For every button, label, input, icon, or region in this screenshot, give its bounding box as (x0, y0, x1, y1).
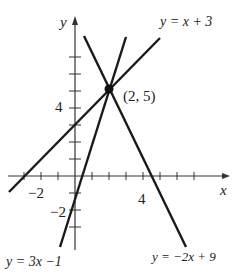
line-label-x-plus-3: y = x + 3 (160, 14, 212, 30)
x-axis-arrow-icon (222, 173, 230, 179)
intersection-point (105, 85, 114, 94)
line-y-equals-neg2x-plus-9 (84, 36, 186, 247)
line-label-3x-minus-1: y = 3x −1 (6, 254, 62, 270)
line-label-neg2x-plus-9: y = −2x + 9 (152, 249, 216, 265)
x-tick-label-4: 4 (138, 191, 146, 208)
y-tick-label-4: 4 (55, 99, 63, 116)
chart-plot (0, 0, 234, 273)
x-tick-label-neg2: −2 (28, 185, 44, 202)
y-tick-label-neg2: −2 (50, 204, 66, 221)
x-axis-label: x (220, 182, 227, 199)
y-axis-arrow-icon (72, 16, 78, 25)
point-label: (2, 5) (123, 88, 156, 105)
y-axis-label: y (60, 14, 67, 31)
